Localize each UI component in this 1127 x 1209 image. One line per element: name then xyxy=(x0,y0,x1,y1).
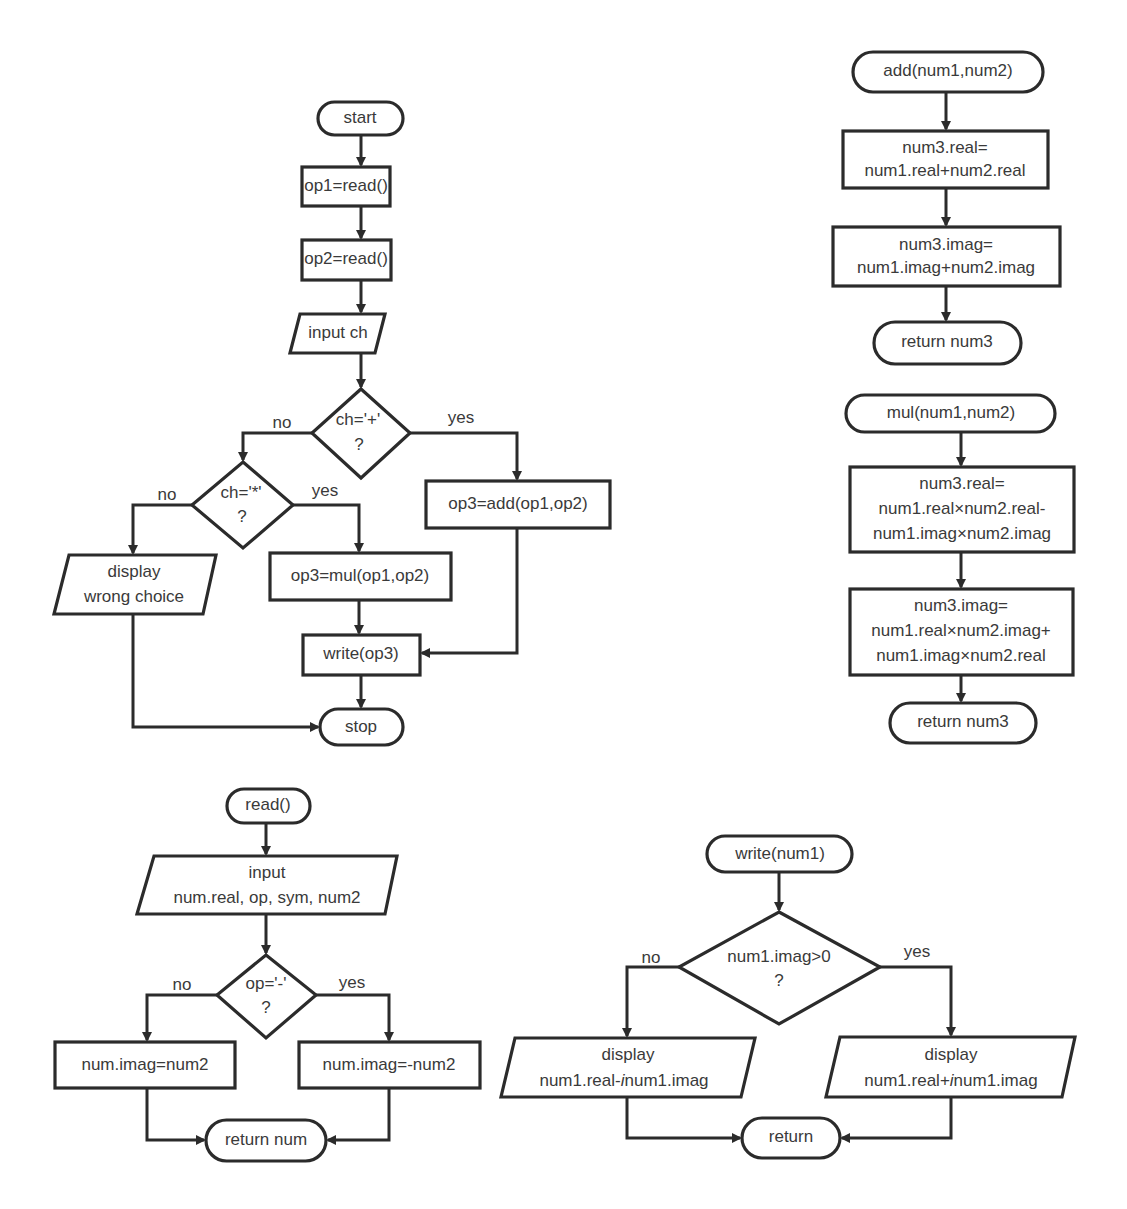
terminator-mul: mul(num1,num2) xyxy=(846,395,1055,432)
terminator-write: write(num1) xyxy=(707,836,852,872)
mul-real-line2: num1.real×num2.real- xyxy=(879,499,1046,518)
imag-positive-label: num.imag=num2 xyxy=(81,1055,208,1074)
read-input-line2: num.real, op, sym, num2 xyxy=(173,888,360,907)
mul-real-line3: num1.imag×num2.imag xyxy=(873,524,1051,543)
wrong-choice-line1: display xyxy=(108,562,161,581)
start-label: start xyxy=(343,108,376,127)
arrow-plus-yes xyxy=(410,433,517,479)
io-display-positive: display num1.real+inum1.imag xyxy=(826,1037,1075,1097)
arrow-mul-yes xyxy=(293,505,359,551)
input-ch-label: input ch xyxy=(308,323,368,342)
decision-minus: op='-' ? xyxy=(217,955,316,1038)
decision-plus-label: ch='+' xyxy=(336,410,380,429)
decision-plus: ch='+' ? xyxy=(312,389,410,478)
mul-start-label: mul(num1,num2) xyxy=(887,403,1016,422)
mul-imag-line3: num1.imag×num2.real xyxy=(876,646,1046,665)
add-real-line1: num3.real= xyxy=(902,138,988,157)
process-add-imag: num3.imag= num1.imag+num2.imag xyxy=(833,227,1060,286)
terminator-stop: stop xyxy=(320,709,403,745)
add-real-line2: num1.real+num2.real xyxy=(864,161,1025,180)
terminator-add: add(num1,num2) xyxy=(853,52,1043,92)
io-display-wrong-choice: display wrong choice xyxy=(54,555,216,614)
stop-label: stop xyxy=(345,717,377,736)
op2-label: op2=read() xyxy=(304,249,388,268)
imag-negative-label: num.imag=-num2 xyxy=(323,1055,456,1074)
decision-minus-label: op='-' xyxy=(246,974,287,993)
branch-label-yes: yes xyxy=(339,973,365,992)
terminator-read: read() xyxy=(227,789,310,823)
add-return-label: return num3 xyxy=(901,332,993,351)
arrow-mul-no xyxy=(133,505,192,553)
arrow-read-no-ret xyxy=(147,1088,204,1140)
process-mul: op3=mul(op1,op2) xyxy=(270,553,451,600)
terminator-add-return: return num3 xyxy=(874,322,1021,364)
terminator-start: start xyxy=(318,102,403,135)
mul-imag-line1: num3.imag= xyxy=(914,596,1008,615)
decision-minus-q: ? xyxy=(261,998,270,1017)
add-imag-line1: num3.imag= xyxy=(899,235,993,254)
display-neg-line2: num1.real-inum1.imag xyxy=(539,1071,708,1090)
decision-mul-q: ? xyxy=(237,507,246,526)
io-display-negative: display num1.real-inum1.imag xyxy=(501,1038,755,1097)
arrow-read-no xyxy=(147,995,217,1040)
io-input-ch: input ch xyxy=(290,314,385,353)
decision-mul-label: ch='*' xyxy=(221,483,262,502)
arrow-write-no-ret xyxy=(627,1097,740,1138)
add-call-label: op3=add(op1,op2) xyxy=(448,494,587,513)
read-return-label: return num xyxy=(225,1130,307,1149)
branch-label-yes: yes xyxy=(448,408,474,427)
arrow-write-yes-ret xyxy=(842,1097,951,1138)
terminator-mul-return: return num3 xyxy=(890,703,1036,743)
process-imag-positive: num.imag=num2 xyxy=(55,1042,235,1088)
branch-label-no: no xyxy=(642,948,661,967)
display-pos-line2: num1.real+inum1.imag xyxy=(864,1071,1037,1090)
mul-call-label: op3=mul(op1,op2) xyxy=(291,566,429,585)
flowchart-canvas: start op1=read() op2=read() input ch ch=… xyxy=(0,0,1127,1209)
read-start-label: read() xyxy=(245,795,290,814)
decision-plus-q: ? xyxy=(354,435,363,454)
decision-mul: ch='*' ? xyxy=(192,462,293,548)
terminator-write-return: return xyxy=(742,1118,840,1158)
mul-flowchart: mul(num1,num2) num3.real= num1.real×num2… xyxy=(846,395,1074,743)
arrow-read-yes xyxy=(316,995,389,1040)
display-pos-line1: display xyxy=(925,1045,978,1064)
process-mul-imag: num3.imag= num1.real×num2.imag+ num1.ima… xyxy=(850,589,1073,675)
decision-imag-q: ? xyxy=(774,971,783,990)
read-flowchart: read() input num.real, op, sym, num2 op=… xyxy=(55,789,480,1161)
branch-label-no: no xyxy=(158,485,177,504)
mul-return-label: return num3 xyxy=(917,712,1009,731)
process-add: op3=add(op1,op2) xyxy=(426,481,610,528)
arrow-wrong-stop xyxy=(133,614,318,727)
branch-label-yes: yes xyxy=(904,942,930,961)
add-start-label: add(num1,num2) xyxy=(883,61,1012,80)
write-return-label: return xyxy=(769,1127,813,1146)
op1-label: op1=read() xyxy=(304,176,388,195)
process-write: write(op3) xyxy=(303,635,420,675)
terminator-read-return: return num xyxy=(206,1120,326,1161)
branch-label-no: no xyxy=(273,413,292,432)
process-add-real: num3.real= num1.real+num2.real xyxy=(843,131,1048,188)
branch-label-yes: yes xyxy=(312,481,338,500)
arrow-plus-no xyxy=(243,433,312,460)
read-input-line1: input xyxy=(249,863,286,882)
write-call-label: write(op3) xyxy=(322,644,399,663)
write-start-label: write(num1) xyxy=(734,844,825,863)
process-op2: op2=read() xyxy=(302,240,391,280)
write-flowchart: write(num1) num1.imag>0 ? no yes display… xyxy=(501,836,1075,1158)
add-imag-line2: num1.imag+num2.imag xyxy=(857,258,1035,277)
arrow-write-yes xyxy=(880,967,951,1035)
display-neg-line1: display xyxy=(602,1045,655,1064)
decision-imag-positive: num1.imag>0 ? xyxy=(679,912,880,1024)
process-op1: op1=read() xyxy=(302,167,390,206)
decision-imag-label: num1.imag>0 xyxy=(727,947,830,966)
wrong-choice-line2: wrong choice xyxy=(83,587,184,606)
process-imag-negative: num.imag=-num2 xyxy=(299,1042,480,1088)
process-mul-real: num3.real= num1.real×num2.real- num1.ima… xyxy=(850,467,1074,552)
io-read-input: input num.real, op, sym, num2 xyxy=(137,856,397,914)
arrow-read-yes-ret xyxy=(328,1088,389,1140)
arrow-write-no xyxy=(627,967,679,1036)
mul-real-line1: num3.real= xyxy=(919,474,1005,493)
branch-label-no: no xyxy=(173,975,192,994)
add-flowchart: add(num1,num2) num3.real= num1.real+num2… xyxy=(833,52,1060,364)
main-flowchart: start op1=read() op2=read() input ch ch=… xyxy=(54,102,610,745)
